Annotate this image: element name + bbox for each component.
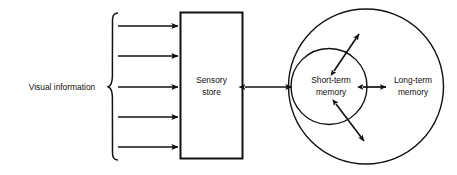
stm-upper-diagonal-arrow bbox=[334, 34, 359, 71]
sensory-store-label-line1: Sensory bbox=[196, 75, 228, 85]
sensory-store-label-line2: store bbox=[202, 87, 221, 97]
sensory-store-box bbox=[181, 13, 243, 159]
memory-model-diagram: Visual information Sensory store Short-t… bbox=[0, 0, 457, 175]
short-term-memory-label-line2: memory bbox=[316, 87, 347, 97]
long-term-memory-label-line2: memory bbox=[398, 87, 429, 97]
diagram-canvas: Visual information Sensory store Short-t… bbox=[0, 0, 457, 175]
short-term-memory-label-line1: Short-term bbox=[311, 75, 351, 85]
left-curly-brace-icon bbox=[108, 13, 117, 160]
visual-information-label: Visual information bbox=[29, 82, 96, 92]
long-term-memory-label-line1: Long-term bbox=[394, 75, 432, 85]
